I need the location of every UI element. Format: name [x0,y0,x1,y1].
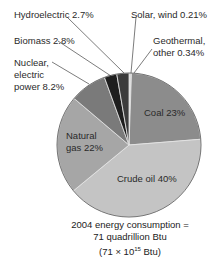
caption-line-3-post: Btu) [141,246,161,257]
label-geothermal-2: other 0.34% [153,47,205,58]
label-coal: Coal 23% [144,107,186,118]
label-biomass: Biomass 2.8% [14,35,75,46]
label-nuclear-1: Nuclear, [14,57,49,68]
label-geothermal-1: Geothermal, [153,35,205,46]
label-natural-gas-1: Natural [66,130,97,141]
caption-line-3-pre: (71 × 10 [99,246,134,257]
caption-line-1: 2004 energy consumption = [60,219,200,231]
caption-exponent: 15 [134,246,141,252]
chart-caption: 2004 energy consumption = 71 quadrillion… [60,219,200,258]
label-hydroelectric: Hydroelectric 2.7% [14,9,94,20]
caption-line-3: (71 × 1015 Btu) [60,243,200,258]
label-nuclear-2: electric [14,69,44,80]
label-natural-gas-2: gas 22% [66,142,104,153]
label-crude-oil: Crude oil 40% [117,173,177,184]
label-nuclear-3: power 8.2% [14,81,65,92]
caption-line-2: 71 quadrillion Btu [60,231,200,243]
label-solar-wind: Solar, wind 0.21% [131,9,208,20]
